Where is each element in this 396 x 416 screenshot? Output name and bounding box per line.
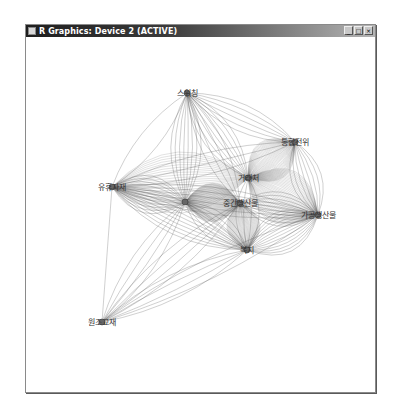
graph-edge — [102, 250, 247, 322]
graph-edges — [102, 93, 323, 322]
node-label-intermediate: 중간생산물 — [223, 198, 258, 208]
graph-edge — [102, 202, 185, 322]
graph-edge — [295, 142, 323, 215]
graph-edge — [102, 202, 185, 322]
node-label-integration: 통합전위 — [281, 137, 309, 147]
graph-edge — [102, 187, 112, 322]
graph-edge — [102, 250, 247, 322]
graph-edge — [102, 250, 247, 322]
node-label-client: 거래처 — [238, 174, 259, 183]
graph-edge — [102, 202, 185, 322]
graph-edge — [175, 93, 187, 202]
node-label-switching: 스위칭 — [177, 89, 198, 98]
node-label-processed: 가공생산물 — [301, 210, 336, 220]
graph-edge — [112, 93, 187, 187]
graph-edge — [179, 93, 187, 202]
network-graph: 스위칭통합전위유휴자재거래처중간생산물가공생산물복지원조교재 — [0, 0, 396, 416]
graph-edge — [185, 93, 197, 202]
node-label-aid_material: 원조교재 — [88, 318, 116, 327]
graph-node-center_left — [182, 199, 188, 205]
node-label-idle_material: 유휴자재 — [98, 183, 126, 192]
graph-edge — [185, 93, 193, 202]
graph-edge — [112, 93, 187, 187]
graph-edge — [102, 250, 247, 322]
node-label-welfare: 복지 — [240, 246, 254, 255]
graph-edge — [102, 202, 185, 322]
